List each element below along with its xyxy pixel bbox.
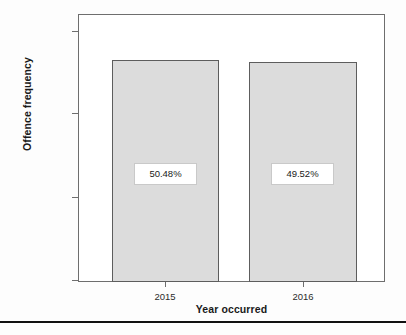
y-tick-mark-300000 [72, 31, 78, 32]
y-tick-mark-200000 [72, 113, 78, 114]
x-tick-mark-2016 [303, 282, 304, 287]
y-tick-mark-100000 [72, 197, 78, 198]
x-tick-label-2015: 2015 [125, 291, 205, 302]
y-tick-mark-0 [72, 280, 78, 281]
bottom-divider-rule [0, 321, 406, 323]
x-axis-title: Year occurred [78, 303, 385, 315]
x-tick-mark-2015 [165, 282, 166, 287]
bar-label-2015: 50.48% [134, 163, 197, 185]
y-axis-title: Offence frequency [21, 19, 33, 189]
chart-figure: Offence frequency 300,000 200,000 100,00… [0, 0, 406, 335]
bar-label-2016: 49.52% [271, 163, 334, 185]
x-tick-label-2016: 2016 [263, 291, 343, 302]
